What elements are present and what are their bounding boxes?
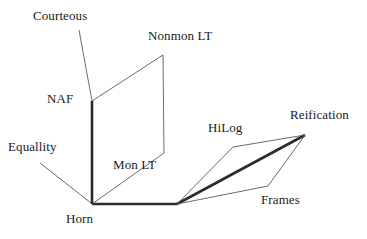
edge-hilog-left-rise [177, 147, 233, 204]
node-label-mon-lt: Mon LT [113, 158, 156, 171]
edge-nonmon-drop [163, 55, 164, 153]
node-label-courteous: Courteous [33, 9, 87, 22]
node-label-frames: Frames [261, 193, 300, 206]
node-label-reification: Reification [290, 108, 349, 121]
node-label-horn: Horn [66, 212, 93, 225]
edge-courteous-leader [79, 30, 92, 101]
edge-naf-to-nonmon [92, 55, 163, 101]
edge-equallity-leader [40, 163, 91, 203]
edge-frames-base [177, 186, 268, 204]
node-label-equallity: Equallity [8, 140, 57, 153]
node-label-nonmon-lt: Nonmon LT [148, 29, 212, 42]
node-label-naf: NAF [47, 92, 73, 105]
edge-frames-drop [268, 135, 305, 186]
diagram-canvas: CourteousNonmon LTNAFReificationHiLogEqu… [0, 0, 367, 239]
node-label-hilog: HiLog [208, 121, 242, 134]
edges-group [40, 30, 305, 204]
